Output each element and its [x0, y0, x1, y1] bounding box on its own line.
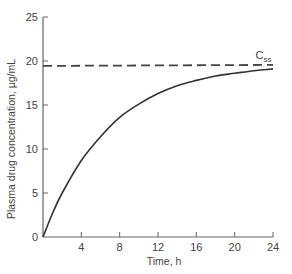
x-tick-label: 24: [267, 241, 279, 253]
y-tick-label: 25: [26, 11, 38, 23]
y-tick-label: 15: [26, 99, 38, 111]
x-tick-label: 16: [190, 241, 202, 253]
y-tick-label: 10: [26, 143, 38, 155]
plot-series: [43, 65, 273, 237]
x-tick-label: 8: [117, 241, 123, 253]
y-tick-label: 5: [32, 187, 38, 199]
x-tick-label: 12: [152, 241, 164, 253]
x-tick-label: 4: [78, 241, 84, 253]
chart: 05101520254812162024Time, hPlasma drug c…: [0, 0, 292, 274]
x-tick-label: 20: [229, 241, 241, 253]
y-tick-label: 20: [26, 55, 38, 67]
concentration-curve: [43, 69, 273, 237]
axes: [43, 17, 273, 237]
css-annotation: Css: [255, 49, 271, 64]
x-axis-label: Time, h: [147, 255, 182, 267]
y-tick-label: 0: [32, 231, 38, 243]
y-axis-label: Plasma drug concentration, µg/mL: [5, 59, 17, 219]
css-dashed-line: [43, 65, 273, 66]
